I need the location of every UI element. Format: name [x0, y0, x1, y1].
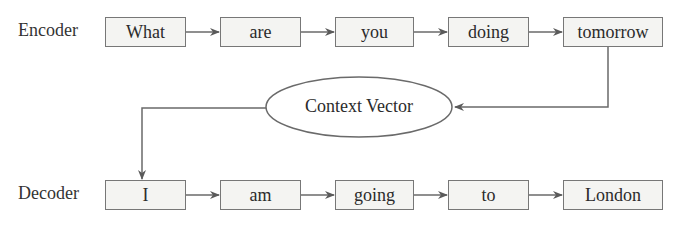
- decoder-token-box: London: [563, 180, 663, 210]
- arrow-encoder-to-context: [455, 47, 608, 107]
- encoder-token-box: What: [105, 17, 186, 47]
- decoder-token-box: to: [448, 180, 529, 210]
- decoder-token-box: going: [335, 180, 414, 210]
- decoder-token-box: am: [220, 180, 301, 210]
- context-vector-label: Context Vector: [266, 96, 452, 117]
- arrow-context-to-decoder: [142, 108, 266, 179]
- encoder-label: Encoder: [18, 20, 78, 41]
- encoder-token-box: tomorrow: [563, 17, 663, 47]
- decoder-token-box: I: [105, 180, 186, 210]
- encoder-token-box: are: [220, 17, 301, 47]
- encoder-token-box: doing: [448, 17, 529, 47]
- encoder-token-box: you: [335, 17, 414, 47]
- decoder-label: Decoder: [18, 183, 79, 204]
